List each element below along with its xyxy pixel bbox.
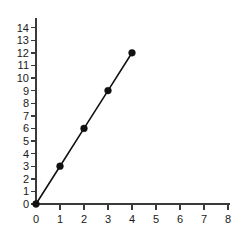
y-axis-tick-label: 11 xyxy=(18,59,29,71)
y-axis-tick-label: 12 xyxy=(17,47,29,59)
y-axis-tick-label: 5 xyxy=(23,135,29,147)
x-axis-tick-label: 7 xyxy=(201,213,207,225)
x-axis-tick-label: 5 xyxy=(153,213,159,225)
y-axis-tick-label: 9 xyxy=(23,85,29,97)
chart-container: 01234567891011121314 012345678 xyxy=(0,0,248,234)
y-axis-tick-label: 1 xyxy=(23,185,29,197)
data-point-marker xyxy=(57,163,64,170)
y-axis-tick-label: 7 xyxy=(23,110,29,122)
data-point-marker xyxy=(33,201,40,208)
chart-background xyxy=(0,0,248,234)
y-axis-tick-label: 8 xyxy=(23,97,29,109)
y-axis-tick-label: 13 xyxy=(17,34,29,46)
data-point-marker xyxy=(105,87,112,94)
y-axis-tick-label: 4 xyxy=(23,148,29,160)
y-axis-tick-label: 10 xyxy=(17,72,29,84)
y-axis-tick-label: 6 xyxy=(23,122,29,134)
x-axis-tick-label: 4 xyxy=(129,213,135,225)
x-axis-tick-label: 8 xyxy=(225,213,231,225)
y-axis-tick-label: 3 xyxy=(23,160,29,172)
x-axis-tick-label: 2 xyxy=(81,213,87,225)
y-axis-tick-label: 14 xyxy=(17,22,29,34)
y-axis-tick-label: 2 xyxy=(23,173,29,185)
x-axis-tick-label: 1 xyxy=(57,213,63,225)
x-axis-tick-label: 3 xyxy=(105,213,111,225)
x-axis-tick-label: 0 xyxy=(33,213,39,225)
data-point-marker xyxy=(81,125,88,132)
y-axis-tick-label: 0 xyxy=(23,198,29,210)
x-axis-tick-label: 6 xyxy=(177,213,183,225)
data-point-marker xyxy=(129,49,136,56)
line-chart-plot: 01234567891011121314 012345678 xyxy=(0,0,248,234)
